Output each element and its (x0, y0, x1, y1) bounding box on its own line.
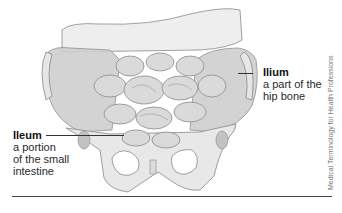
ileum-label: Ileum a portion of the small intestine (13, 129, 69, 177)
credit-text: Medical Terminology for Health Professio… (327, 56, 334, 191)
ilium-leader-line (238, 73, 253, 74)
ileum-description-line-3: intestine (13, 165, 69, 177)
ilium-label: Ilium a part of the hip bone (263, 66, 322, 102)
ilium-term: Ilium (263, 66, 322, 78)
ilium-description-line-2: hip bone (263, 90, 322, 102)
ileum-term: Ileum (13, 129, 69, 141)
ileum-description-line-2: of the small (13, 153, 69, 165)
pelvis-intestine-illustration (0, 0, 342, 213)
ileum-description-line-1: a portion (13, 141, 69, 153)
ilium-description-line-1: a part of the (263, 78, 322, 90)
bottom-divider (12, 196, 332, 197)
